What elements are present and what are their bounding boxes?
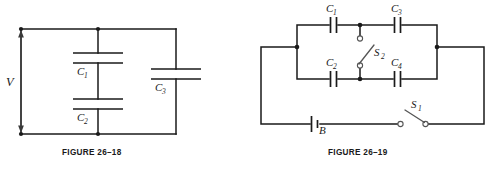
capacitor-c1-label-sub: 1 (333, 8, 337, 17)
switch-s1-terminal-left[interactable] (398, 121, 403, 126)
switch-s1[interactable]: S 1 (398, 98, 428, 127)
capacitor-c3-label-sub: 3 (397, 8, 402, 17)
junction-dot-right (435, 45, 440, 50)
battery-label: B (319, 124, 326, 136)
switch-s2-blade[interactable] (359, 45, 374, 64)
voltage-source-label: V (6, 75, 15, 89)
capacitor-c1: C 1 (326, 2, 337, 33)
switch-s1-label-sub: 1 (418, 104, 422, 113)
switch-s2-label: S (374, 46, 380, 58)
wire-mid-right-out (402, 47, 437, 79)
capacitor-c3: C 3 (391, 2, 402, 33)
capacitor-c2-label-sub: 2 (333, 62, 337, 71)
figure-26-19: C 1 C 3 C 2 C 4 B (250, 0, 501, 169)
figure-26-18: C 1 C 2 C 3 V FIGURE 26–18 (0, 0, 250, 169)
switch-s2-label-sub: 2 (381, 52, 385, 61)
capacitor-c1-label-sub: 1 (84, 71, 88, 80)
capacitor-c2-label-sub: 2 (84, 117, 88, 126)
junction-dot-bottom-middle (96, 132, 100, 136)
capacitor-c4-label-sub: 4 (398, 62, 402, 71)
wire-mid-left-in (297, 47, 329, 79)
figure-page: C 1 C 2 C 3 V FIGURE 26–18 (0, 0, 501, 169)
wire-top-right-out (402, 25, 437, 47)
switch-s2-terminal-upper[interactable] (357, 36, 362, 41)
capacitor-c2: C 2 (326, 56, 337, 87)
capacitor-c4: C 4 (391, 56, 402, 87)
switch-s1-label: S (411, 98, 417, 110)
voltage-arrowhead-down (18, 126, 24, 134)
junction-dot-top-middle (96, 27, 100, 31)
junction-dot-bottom-center (358, 77, 363, 82)
circuit-wires-left (21, 29, 176, 134)
figure-26-19-caption: FIGURE 26–19 (328, 148, 388, 157)
voltage-arrowhead-up (18, 30, 24, 38)
switch-s2[interactable]: S 2 (357, 36, 385, 68)
junction-dot-top-center (358, 23, 363, 28)
capacitor-c3-label-sub: 3 (161, 87, 166, 96)
junction-dot-left (295, 45, 300, 50)
battery-b: B (312, 116, 327, 136)
wire-top-left-in (297, 25, 329, 47)
wire-outer-left (261, 47, 310, 124)
circuit-wires-right (261, 25, 484, 124)
figure-26-18-caption: FIGURE 26–18 (62, 148, 122, 157)
voltage-source-arrow: V (6, 30, 24, 133)
